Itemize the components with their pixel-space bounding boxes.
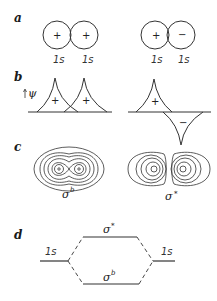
orbital-label-1s: 1s xyxy=(82,54,94,65)
orbital-label-1s: 1s xyxy=(151,54,163,65)
orbital-label-1s: 1s xyxy=(178,54,190,65)
sigma-bonding-level-label: σ xyxy=(103,271,111,284)
panel-d: d 1s 1s σ * σ b xyxy=(14,222,175,284)
molecular-orbital-diagram: a + + 1s 1s + − 1s 1s b ψ + + xyxy=(0,0,217,301)
sigma-bonding-label: σ xyxy=(62,188,70,201)
sign-plus: + xyxy=(53,30,61,41)
sign-minus: − xyxy=(178,29,186,40)
sigma-antibonding-sup: * xyxy=(174,190,178,198)
antibonding-circles: + − 1s 1s xyxy=(141,21,195,65)
panel-label-d: d xyxy=(14,228,23,242)
panel-label-a: a xyxy=(14,11,22,25)
bonding-overlap-circles: + + 1s 1s xyxy=(43,21,98,65)
sigma-bonding-level-sup: b xyxy=(111,269,116,277)
panel-a: a + + 1s 1s + − 1s 1s xyxy=(14,11,195,65)
sign-plus: + xyxy=(82,30,90,41)
sign-minus: − xyxy=(179,117,187,128)
antibonding-contour-plot xyxy=(128,152,210,186)
sign-plus: + xyxy=(152,30,160,41)
sign-plus: + xyxy=(151,96,159,107)
panel-label-c: c xyxy=(14,140,22,154)
sign-plus: + xyxy=(82,95,90,106)
sigma-bonding-sup: b xyxy=(70,186,75,194)
sigma-star-label: σ xyxy=(103,223,111,236)
panel-label-b: b xyxy=(14,70,22,84)
psi-axis-label: ψ xyxy=(28,87,37,100)
sigma-antibonding-label: σ xyxy=(165,190,173,203)
panel-c: c σ b σ * xyxy=(14,140,210,203)
sign-plus: + xyxy=(51,95,59,106)
level-label-1s-left: 1s xyxy=(45,246,57,257)
level-label-1s-right: 1s xyxy=(161,246,173,257)
sigma-star-sup: * xyxy=(111,222,115,230)
panel-b: b ψ + + + − xyxy=(14,70,211,145)
bonding-contour-plot xyxy=(34,147,104,191)
orbital-label-1s: 1s xyxy=(53,54,65,65)
